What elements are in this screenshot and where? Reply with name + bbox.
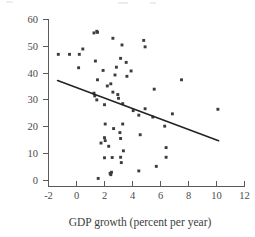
x-axis-ticks <box>49 181 245 187</box>
data-point <box>104 123 107 126</box>
data-point <box>153 88 156 91</box>
y-tick-label-30: 30 <box>28 94 39 105</box>
data-point <box>114 74 117 77</box>
x-tick-label-12: 12 <box>239 190 250 201</box>
data-point <box>120 161 123 164</box>
data-point <box>144 107 147 110</box>
data-point <box>57 53 60 56</box>
data-point <box>110 171 113 174</box>
y-tick-label-60: 60 <box>28 14 39 25</box>
y-tick-label-10: 10 <box>28 148 39 159</box>
data-point <box>77 66 80 69</box>
data-point <box>165 156 168 159</box>
x-tick-label-0: 0 <box>74 190 79 201</box>
x-tick-label-6: 6 <box>158 190 163 201</box>
data-point <box>109 82 112 85</box>
data-point <box>100 142 103 145</box>
x-axis-title: GDP growth (percent per year) <box>69 216 212 229</box>
data-point <box>142 39 145 42</box>
y-tick-label-20: 20 <box>28 121 39 132</box>
x-axis-tick-labels: -2 0 2 4 6 8 10 12 <box>44 190 250 201</box>
y-tick-label-0: 0 <box>33 175 38 186</box>
data-point <box>119 156 122 159</box>
x-tick-label-2: 2 <box>102 190 107 201</box>
x-tick-label-4: 4 <box>130 190 136 201</box>
y-tick-label-50: 50 <box>28 41 39 52</box>
y-tick-label-40: 40 <box>28 68 39 79</box>
data-point <box>139 133 142 136</box>
y-axis: 60 50 40 30 20 10 0 <box>28 14 49 186</box>
x-tick-label-10: 10 <box>211 190 222 201</box>
data-point <box>155 165 158 168</box>
data-point <box>125 61 128 64</box>
data-point <box>121 123 124 126</box>
regression-trend-line <box>58 81 219 141</box>
data-point <box>103 136 106 139</box>
data-point <box>119 137 122 140</box>
plot-canvas: 60 50 40 30 20 10 0 - <box>0 0 255 237</box>
data-point <box>81 48 84 51</box>
data-point <box>116 93 119 96</box>
data-point <box>78 53 81 56</box>
data-points-layer <box>57 30 220 180</box>
data-point <box>115 66 118 69</box>
data-point <box>180 78 183 81</box>
data-point <box>94 60 97 63</box>
data-point <box>111 37 114 40</box>
data-point <box>121 44 124 47</box>
data-point <box>97 177 100 180</box>
data-point <box>111 91 114 94</box>
data-point <box>96 31 99 34</box>
data-point <box>96 78 99 81</box>
data-point <box>125 75 128 78</box>
data-point <box>103 156 106 159</box>
data-point <box>122 149 125 152</box>
scan-artifact <box>6 1 156 4</box>
data-point <box>165 146 168 149</box>
data-point <box>130 70 133 73</box>
data-point <box>95 98 98 101</box>
data-point <box>93 31 96 34</box>
data-point <box>118 131 121 134</box>
x-axis: -2 0 2 4 6 8 10 12 <box>44 181 250 201</box>
data-point <box>137 114 140 117</box>
data-point <box>171 112 174 115</box>
x-tick-label-minus2: -2 <box>44 190 53 201</box>
data-point <box>119 57 122 60</box>
data-point <box>107 145 110 148</box>
x-tick-label-8: 8 <box>186 190 191 201</box>
data-point <box>163 125 166 128</box>
data-point <box>68 53 71 56</box>
y-axis-ticks <box>43 20 49 181</box>
data-point <box>103 103 106 106</box>
data-point <box>117 97 120 100</box>
data-point <box>112 127 115 130</box>
data-point <box>137 169 140 172</box>
scatter-plot-figure: 60 50 40 30 20 10 0 - <box>0 0 255 237</box>
data-point <box>104 139 107 142</box>
data-point <box>102 69 105 72</box>
data-point <box>111 156 114 159</box>
y-axis-tick-labels: 60 50 40 30 20 10 0 <box>28 14 39 186</box>
data-point <box>144 45 147 48</box>
data-point <box>216 108 219 111</box>
data-point <box>106 85 109 88</box>
